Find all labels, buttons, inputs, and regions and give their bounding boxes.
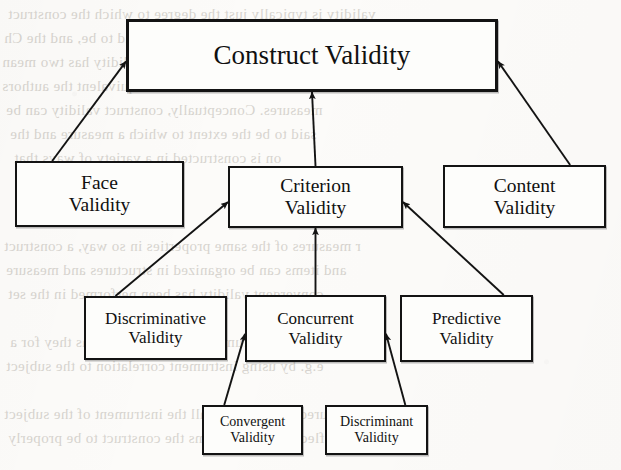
node-content-validity[interactable]: Content Validity [443,165,606,228]
node-label-line1: Criterion [280,175,350,196]
node-label-line2: Validity [289,329,343,348]
node-label-line2: Validity [69,194,131,215]
node-label: Construct Validity [210,40,415,70]
edge-criterion-to-construct [312,92,316,166]
edge-convergent-to-concurrent [224,334,245,405]
node-label-line2: Validity [129,328,183,347]
node-label-line1: Concurrent [277,309,353,328]
node-construct-validity[interactable]: Construct Validity [126,19,498,92]
node-label-line1: Discriminative [105,309,206,328]
node-discriminant-validity[interactable]: Discriminant Validity [325,405,428,455]
diagram-canvas: validity is typically just the degree to… [0,0,621,470]
node-face-validity[interactable]: Face Validity [15,161,184,227]
node-convergent-validity[interactable]: Convergent Validity [202,405,303,455]
edge-content-to-construct [498,61,570,165]
node-label-line1: Content [494,175,556,196]
node-label-line1: Discriminant [340,414,413,429]
node-label-line2: Validity [285,197,347,218]
node-label-line2: Validity [440,329,494,348]
edge-face-to-construct [52,61,126,161]
node-label: Predictive Validity [428,309,505,347]
node-label: Discriminant Validity [336,414,417,445]
node-label: Discriminative Validity [101,309,210,347]
node-predictive-validity[interactable]: Predictive Validity [400,295,533,362]
node-label: Criterion Validity [276,175,354,219]
node-criterion-validity[interactable]: Criterion Validity [228,166,403,228]
node-label-line2: Validity [230,430,274,445]
node-label-line2: Validity [494,197,556,218]
node-discriminative-validity[interactable]: Discriminative Validity [84,296,227,360]
node-label-line1: Convergent [220,414,285,429]
node-concurrent-validity[interactable]: Concurrent Validity [245,295,386,362]
node-label-line1: Face [81,172,118,193]
node-label: Content Validity [490,175,560,219]
node-label: Face Validity [65,172,135,216]
node-label-line1: Predictive [432,309,501,328]
node-label: Concurrent Validity [273,309,357,347]
node-label-line2: Validity [354,430,398,445]
node-label: Convergent Validity [216,414,289,445]
